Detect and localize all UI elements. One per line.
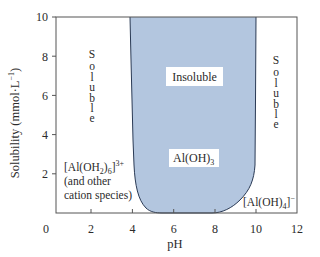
y-tick-label: 6 <box>42 89 48 103</box>
y-tick-label: 2 <box>42 167 48 181</box>
svg-text:e: e <box>273 118 278 130</box>
soluble-label-right: S o l u b l e <box>273 54 279 130</box>
x-tick-label: 12 <box>291 222 303 236</box>
x-tick-label: 0 <box>43 222 49 236</box>
y-axis-title: Solubility (mmol·L−1) <box>7 68 22 178</box>
x-tick-label: 10 <box>250 222 262 236</box>
x-tick-label: 4 <box>129 222 135 236</box>
x-axis <box>91 209 256 213</box>
insoluble-label: Insoluble <box>172 70 217 84</box>
svg-text:S: S <box>273 54 279 66</box>
svg-text:e: e <box>89 112 94 124</box>
soluble-label-left: S o l u b l e <box>89 48 95 124</box>
aluminate-label: [Al(OH)4]− <box>243 194 295 211</box>
insoluble-region <box>130 17 256 213</box>
y-tick-label: 8 <box>42 50 48 64</box>
x-tick-label: 6 <box>171 222 177 236</box>
x-axis-title: pH <box>167 237 182 251</box>
cation-species-line3: cation species) <box>64 189 132 202</box>
aloh3-label: Al(OH)3 <box>173 151 214 167</box>
solubility-chart: 10 8 6 4 2 0 2 4 6 8 10 12 pH Solubility… <box>0 0 320 257</box>
svg-text:S: S <box>89 48 95 60</box>
cation-species-line2: (and other <box>64 175 111 188</box>
x-tick-label: 2 <box>88 222 94 236</box>
y-axis <box>52 17 56 174</box>
y-tick-label: 4 <box>42 128 48 142</box>
x-tick-label: 8 <box>212 222 218 236</box>
cation-species-label: [Al(OH2)6]3+ <box>64 159 124 176</box>
y-tick-label: 10 <box>36 10 48 24</box>
